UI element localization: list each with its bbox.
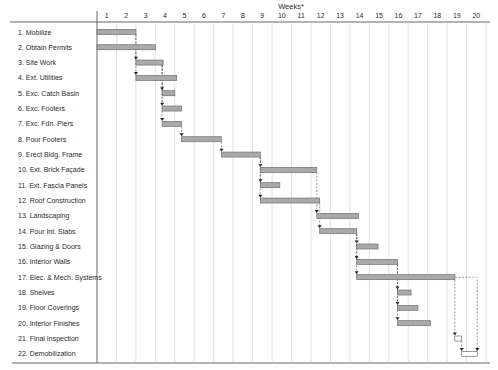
task-bar [162, 106, 181, 111]
task-label: 19. Floor Coverings [18, 304, 80, 312]
task-label: 4. Ext. Utilities [18, 74, 63, 81]
task-bar [221, 152, 260, 157]
week-tick-label: 14 [356, 12, 364, 19]
task-bar [455, 336, 462, 341]
task-bar [260, 167, 316, 172]
arrowhead-icon [180, 133, 184, 136]
task-bar [357, 259, 398, 264]
task-bar [357, 244, 378, 249]
task-label: 17. Elec. & Mech. Systems [18, 274, 102, 282]
task-bars [97, 29, 477, 356]
task-label: 14. Pour Int. Slabs [18, 228, 76, 235]
task-bar [398, 305, 418, 310]
task-bar [162, 91, 175, 96]
task-label: 20. Interior Finishes [18, 320, 80, 327]
task-bar [320, 229, 357, 234]
week-tick-label: 11 [298, 12, 305, 19]
task-label: 12. Roof Construction [18, 197, 86, 204]
arrowhead-icon [318, 225, 322, 228]
task-bar [398, 321, 431, 326]
task-label: 21. Final Inspection [18, 335, 79, 343]
task-label: 9. Erect Bldg. Frame [18, 151, 82, 159]
week-tick-label: 20 [472, 12, 480, 19]
task-bar [97, 45, 155, 50]
task-bar [136, 60, 163, 65]
task-label: 6. Exc. Footers [18, 105, 66, 112]
task-bar [462, 351, 478, 356]
task-label: 3. Site Work [18, 59, 56, 66]
arrowhead-icon [453, 333, 457, 336]
week-tick-label: 5 [183, 12, 187, 19]
arrowhead-icon [134, 72, 138, 75]
week-tick-label: 4 [163, 12, 167, 19]
task-bar [97, 29, 136, 34]
task-label: 22. Demobilization [18, 350, 76, 357]
task-bar [317, 213, 359, 218]
task-label: 1. Mobilize [18, 29, 52, 36]
task-bar [357, 275, 455, 280]
task-labels: 1. Mobilize2. Obtain Permits3. Site Work… [18, 29, 102, 358]
task-label: 7. Exc. Fdn. Piers [18, 120, 74, 127]
task-bar [136, 75, 177, 80]
arrowhead-icon [396, 317, 400, 320]
task-bar [182, 137, 222, 142]
arrowhead-icon [315, 210, 319, 213]
arrowhead-icon [258, 195, 262, 198]
task-bar [398, 290, 412, 295]
task-bar [162, 121, 181, 126]
task-bar [260, 183, 279, 188]
task-bar [260, 198, 319, 203]
task-label: 5. Exc. Catch Basin [18, 90, 79, 97]
task-label: 8. Pour Footers [18, 136, 67, 143]
week-tick-label: 9 [260, 12, 264, 19]
task-label: 13. Landscaping [18, 212, 69, 220]
task-label: 16. Interior Walls [18, 258, 71, 265]
task-label: 10. Ext. Brick Façade [18, 166, 85, 174]
week-tick-label: 12 [317, 12, 325, 19]
task-label: 15. Glazing & Doors [18, 243, 81, 251]
gantt-chart: Weeks* 1234567891011121314151617181920 1… [0, 0, 498, 370]
task-label: 11. Ext. Fascia Panels [18, 182, 88, 189]
week-tick-label: 16 [395, 12, 403, 19]
week-tick-label: 19 [453, 12, 461, 19]
arrowhead-icon [460, 348, 464, 351]
week-tick-label: 10 [278, 12, 286, 19]
arrowhead-icon [219, 149, 223, 152]
week-tick-label: 3 [144, 12, 148, 19]
arrowhead-icon [160, 118, 164, 121]
task-label: 18. Shelves [18, 289, 55, 296]
week-tick-label: 8 [241, 12, 245, 19]
chart-title: Weeks* [278, 2, 304, 11]
week-tick-label: 7 [221, 12, 225, 19]
week-tick-label: 1 [105, 12, 109, 19]
arrowhead-icon [355, 271, 359, 274]
week-tick-label: 15 [375, 12, 383, 19]
week-header: 1234567891011121314151617181920 [105, 12, 480, 19]
week-tick-label: 2 [124, 12, 128, 19]
week-tick-label: 6 [202, 12, 206, 19]
week-tick-label: 18 [433, 12, 441, 19]
week-tick-label: 13 [336, 12, 344, 19]
arrowhead-icon [475, 348, 479, 351]
task-label: 2. Obtain Permits [18, 44, 73, 51]
week-tick-label: 17 [414, 12, 422, 19]
